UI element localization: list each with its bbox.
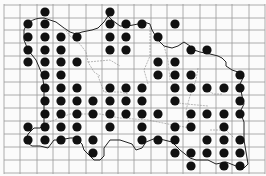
occurrence-dot [137,19,146,28]
occurrence-dot [88,96,97,105]
occurrence-dot [170,70,179,79]
occurrence-dot [137,122,146,131]
distribution-map [0,0,266,176]
occurrence-dot [153,109,162,118]
occurrence-dot [88,109,97,118]
occurrence-dot [121,32,130,41]
occurrence-dot [235,70,244,79]
occurrence-dot [40,122,49,131]
occurrence-dot [40,83,49,92]
occurrence-dot [105,83,114,92]
occurrence-dot [56,32,65,41]
occurrence-dot [170,135,179,144]
occurrence-dot [219,161,228,170]
occurrence-dot [88,148,97,157]
occurrence-dot [105,96,114,105]
occurrence-dot [235,161,244,170]
occurrence-dot [56,83,65,92]
occurrence-dot [40,135,49,144]
occurrence-dot [202,135,211,144]
occurrence-dot [23,57,32,66]
occurrence-dot [235,109,244,118]
occurrence-dot [56,122,65,131]
occurrence-dot [88,135,97,144]
occurrence-dot [72,135,81,144]
occurrence-dot [202,83,211,92]
occurrence-dot [56,57,65,66]
occurrence-dot [105,32,114,41]
distribution-dots [0,0,266,176]
occurrence-dot [105,122,114,131]
occurrence-dot [72,57,81,66]
occurrence-dot [170,96,179,105]
occurrence-dot [153,57,162,66]
occurrence-dot [153,135,162,144]
occurrence-dot [23,45,32,54]
occurrence-dot [170,122,179,131]
occurrence-dot [235,148,244,157]
occurrence-dot [153,32,162,41]
occurrence-dot [40,19,49,28]
occurrence-dot [186,148,195,157]
occurrence-dot [72,83,81,92]
occurrence-dot [72,96,81,105]
occurrence-dot [105,7,114,16]
occurrence-dot [121,19,130,28]
occurrence-dot [137,96,146,105]
occurrence-dot [121,96,130,105]
occurrence-dot [40,57,49,66]
occurrence-dot [56,96,65,105]
occurrence-dot [56,109,65,118]
occurrence-dot [72,109,81,118]
occurrence-dot [121,45,130,54]
occurrence-dot [40,32,49,41]
occurrence-dot [23,122,32,131]
occurrence-dot [72,32,81,41]
occurrence-dot [40,96,49,105]
occurrence-dot [219,122,228,131]
occurrence-dot [72,122,81,131]
occurrence-dot [186,83,195,92]
occurrence-dot [56,135,65,144]
occurrence-dot [23,135,32,144]
occurrence-dot [121,109,130,118]
occurrence-dot [186,70,195,79]
occurrence-dot [235,135,244,144]
occurrence-dot [170,57,179,66]
occurrence-dot [202,45,211,54]
occurrence-dot [235,96,244,105]
occurrence-dot [202,109,211,118]
occurrence-dot [137,135,146,144]
occurrence-dot [56,70,65,79]
occurrence-dot [40,109,49,118]
occurrence-dot [219,135,228,144]
occurrence-dot [186,45,195,54]
occurrence-dot [219,148,228,157]
occurrence-dot [219,83,228,92]
occurrence-dot [40,7,49,16]
occurrence-dot [40,70,49,79]
occurrence-dot [105,19,114,28]
occurrence-dot [40,45,49,54]
occurrence-dot [235,83,244,92]
occurrence-dot [186,161,195,170]
occurrence-dot [121,83,130,92]
occurrence-dot [153,70,162,79]
occurrence-dot [137,83,146,92]
occurrence-dot [105,109,114,118]
occurrence-dot [170,19,179,28]
occurrence-dot [105,45,114,54]
occurrence-dot [170,83,179,92]
occurrence-dot [56,45,65,54]
occurrence-dot [23,19,32,28]
occurrence-dot [219,109,228,118]
occurrence-dot [23,32,32,41]
occurrence-dot [186,109,195,118]
occurrence-dot [202,148,211,157]
occurrence-dot [137,109,146,118]
occurrence-dot [170,148,179,157]
occurrence-dot [186,122,195,131]
